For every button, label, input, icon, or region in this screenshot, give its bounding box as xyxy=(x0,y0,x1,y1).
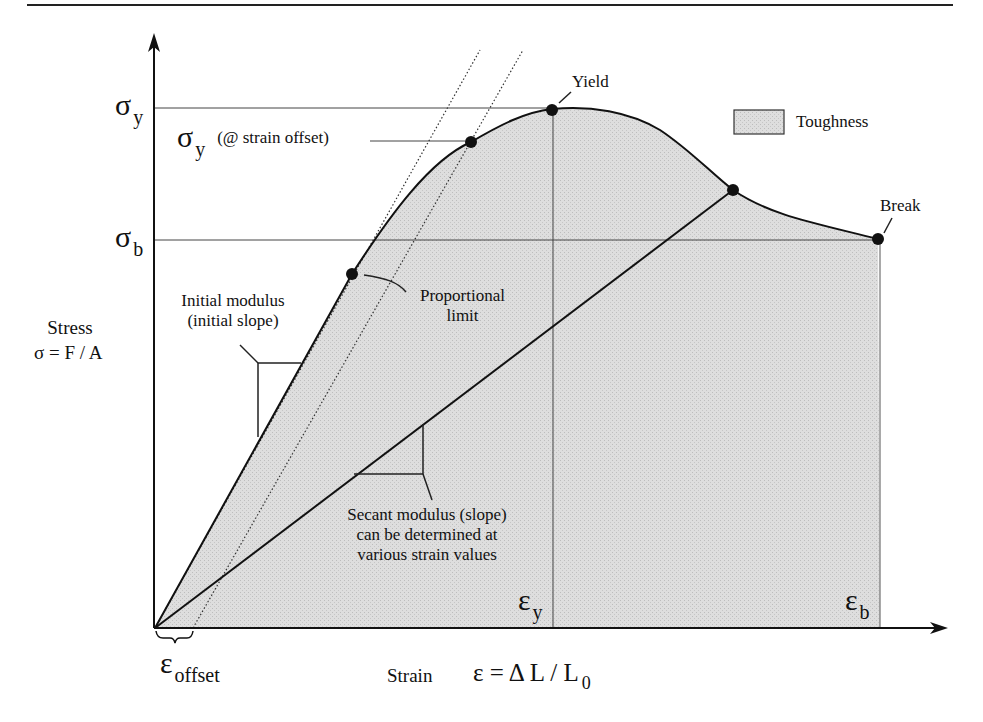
legend-label: Toughness xyxy=(796,113,868,130)
y-axis-formula: σ = F / A xyxy=(34,343,102,362)
initial-modulus-label: Initial modulus (initial slope) xyxy=(158,292,308,329)
stress-strain-diagram xyxy=(0,0,983,722)
epsilon-b-tick-label: εb xyxy=(845,585,870,615)
epsilon-offset-label: εoffset xyxy=(160,648,220,678)
break-point xyxy=(872,233,884,245)
initial-modulus-leader xyxy=(240,345,258,363)
x-axis-formula: ε = Δ L / L0 xyxy=(473,660,591,685)
legend-swatch xyxy=(734,110,784,134)
sigma-y-tick-label: σy xyxy=(115,90,143,120)
offset-brace-icon xyxy=(156,631,193,643)
sigma-offset-point xyxy=(465,136,477,148)
yield-point xyxy=(546,104,558,116)
sigma-offset-label: σy (@ strain offset) xyxy=(177,122,329,152)
proportional-limit-label: Proportional limit xyxy=(405,287,520,324)
proportional-limit-point xyxy=(346,268,358,280)
yield-label: Yield xyxy=(572,73,609,90)
epsilon-y-tick-label: εy xyxy=(518,585,543,615)
y-axis-label: Stress xyxy=(35,318,105,337)
x-axis-label: Strain xyxy=(387,666,432,685)
secant-point xyxy=(727,184,739,196)
break-label: Break xyxy=(880,197,921,214)
secant-modulus-label: Secant modulus (slope) can be determined… xyxy=(317,506,537,563)
yield-leader xyxy=(559,92,571,103)
sigma-b-tick-label: σb xyxy=(115,222,143,252)
break-leader xyxy=(884,218,892,233)
